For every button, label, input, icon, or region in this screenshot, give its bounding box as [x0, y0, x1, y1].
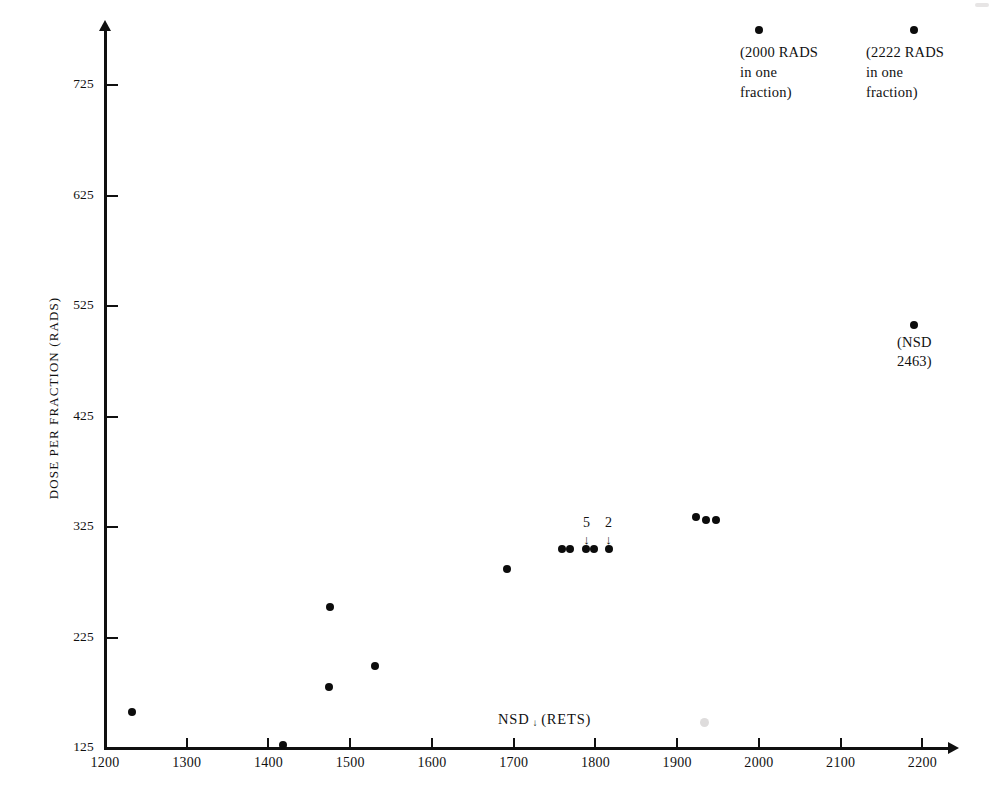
data-point	[692, 513, 700, 521]
data-point	[279, 741, 287, 749]
x-axis-tick	[186, 738, 188, 748]
y-axis-tick	[107, 416, 118, 418]
annotation-2222-rads: (2222 RADS in one fraction)	[866, 42, 944, 102]
down-arrow-icon: ↓	[599, 532, 619, 548]
data-point	[910, 321, 918, 329]
data-point	[755, 26, 763, 34]
y-axis-tick-label: 425	[48, 408, 94, 424]
x-axis-tick-label: 1600	[402, 755, 462, 771]
x-axis-tick-label: 2000	[729, 755, 789, 771]
x-axis-tick-label: 2100	[811, 755, 871, 771]
y-axis-line	[104, 28, 107, 750]
x-axis-tick	[676, 738, 678, 748]
x-axis-tick	[921, 738, 923, 748]
x-axis-tick	[267, 738, 269, 748]
annotation-2000-rads: (2000 RADS in one fraction)	[740, 42, 818, 102]
data-point	[702, 516, 710, 524]
y-axis-tick-label: 525	[48, 297, 94, 313]
cluster-count-label: 5	[576, 515, 596, 531]
x-axis-arrowhead-icon	[948, 742, 959, 754]
x-axis-line	[104, 747, 954, 750]
down-arrow-icon: ↓	[576, 532, 596, 548]
y-axis-tick-label: 625	[48, 187, 94, 203]
scatter-plot-canvas: DOSE PER FRACTION (RADS) NSD↓(RETS) 1252…	[0, 0, 992, 806]
x-axis-tick	[594, 738, 596, 748]
x-axis-tick-label: 1500	[320, 755, 380, 771]
data-point	[128, 708, 136, 716]
x-axis-tick-label: 1300	[157, 755, 217, 771]
y-axis-tick	[107, 637, 118, 639]
y-axis-tick-label: 325	[48, 518, 94, 534]
x-axis-tick-label: 1700	[484, 755, 544, 771]
data-point	[712, 516, 720, 524]
y-axis-tick	[107, 195, 118, 197]
y-axis-tick-label: 725	[48, 76, 94, 92]
down-arrow-icon: ↓	[529, 717, 541, 728]
data-point	[558, 545, 566, 553]
y-axis-tick	[107, 84, 118, 86]
x-axis-tick-label: 1200	[75, 755, 135, 771]
data-point	[325, 683, 333, 691]
cluster-count-label: 2	[599, 515, 619, 531]
scan-speck	[700, 718, 709, 727]
x-axis-tick-label: 1400	[238, 755, 298, 771]
x-axis-tick	[513, 738, 515, 748]
x-axis-title: NSD↓(RETS)	[498, 711, 591, 728]
y-axis-tick-label: 225	[48, 629, 94, 645]
y-axis-arrowhead-icon	[99, 20, 111, 31]
chart-page: DOSE PER FRACTION (RADS) NSD↓(RETS) 1252…	[0, 0, 992, 806]
x-axis-title-suffix: (RETS)	[541, 711, 591, 727]
data-point	[326, 603, 334, 611]
x-axis-tick	[758, 738, 760, 748]
x-axis-tick-label: 1800	[565, 755, 625, 771]
data-point	[371, 662, 379, 670]
y-axis-tick	[107, 526, 118, 528]
x-axis-tick	[431, 738, 433, 748]
x-axis-tick	[840, 738, 842, 748]
scan-speck	[975, 3, 989, 7]
x-axis-tick-label: 1900	[647, 755, 707, 771]
x-axis-tick-label: 2200	[892, 755, 952, 771]
x-axis-tick	[349, 738, 351, 748]
y-axis-tick	[107, 747, 118, 749]
x-axis-title-prefix: NSD	[498, 711, 529, 727]
data-point	[910, 26, 918, 34]
annotation-nsd-2463: (NSD 2463)	[897, 333, 932, 371]
data-point	[566, 545, 574, 553]
y-axis-tick	[107, 305, 118, 307]
y-axis-tick-label: 125	[48, 739, 94, 755]
data-point	[503, 565, 511, 573]
x-axis-tick	[104, 738, 106, 748]
